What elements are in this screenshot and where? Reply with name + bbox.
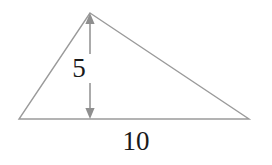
triangle-outline	[19, 13, 249, 119]
base-dimension-label: 10	[110, 128, 162, 155]
height-arrowhead-down-icon	[85, 108, 94, 119]
height-dimension-label: 5	[66, 54, 92, 83]
triangle-figure: 5 10	[0, 0, 272, 165]
